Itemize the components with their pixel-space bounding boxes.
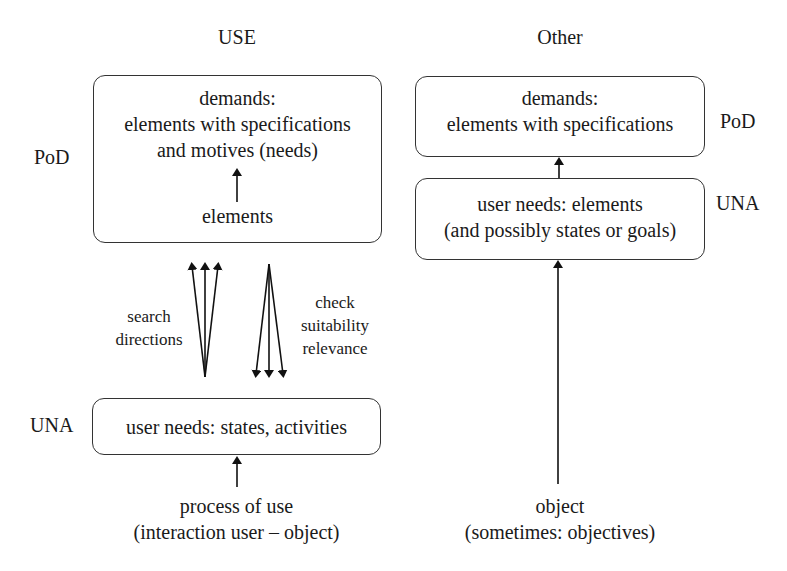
arrows-layer: [0, 0, 787, 571]
check-arrow-3-icon: [269, 264, 283, 374]
search-arrow-3-icon: [205, 266, 218, 377]
search-arrow-1-icon: [192, 266, 205, 377]
check-arrow-1-icon: [256, 264, 269, 374]
